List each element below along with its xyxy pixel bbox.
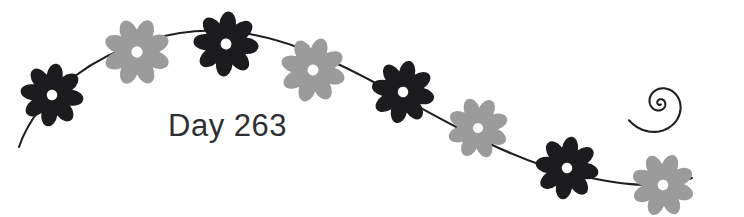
floral-vine-illustration: Day 263	[0, 0, 744, 217]
artwork-canvas: Day 263	[0, 0, 744, 217]
day-caption: Day 263	[168, 108, 287, 143]
